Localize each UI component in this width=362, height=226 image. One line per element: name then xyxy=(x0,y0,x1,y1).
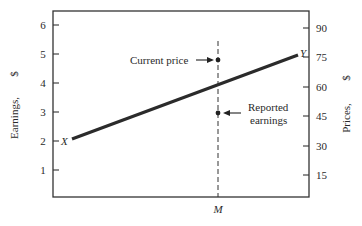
tick-label: 45 xyxy=(316,110,328,122)
tick-label: 75 xyxy=(316,51,328,63)
arrowhead-icon xyxy=(223,110,230,116)
svg-text:Earnings,: Earnings, xyxy=(8,97,20,139)
xy-line xyxy=(72,55,298,139)
svg-text:$: $ xyxy=(8,71,20,77)
left-axis-title: Earnings, $ xyxy=(8,71,20,139)
tick-label: 90 xyxy=(316,22,328,34)
tick-label: 1 xyxy=(40,164,46,176)
reported-earnings-point xyxy=(216,111,221,116)
svg-text:Prices,: Prices, xyxy=(340,103,352,133)
tick-label: 2 xyxy=(40,135,46,147)
left-axis-ticks xyxy=(53,25,59,170)
tick-label: 5 xyxy=(40,48,46,60)
tick-label: 4 xyxy=(40,77,46,89)
tick-label: 15 xyxy=(316,169,328,181)
reported-earnings-label: Reported xyxy=(248,101,289,113)
tick-label: 3 xyxy=(40,106,46,118)
left-axis-tick-labels: 1 2 3 4 5 6 xyxy=(40,19,46,176)
tick-label: 60 xyxy=(316,81,328,93)
tick-label: 6 xyxy=(40,19,46,31)
right-axis-title: Prices, $ xyxy=(340,75,352,133)
m-label: M xyxy=(212,203,223,215)
x-label: X xyxy=(60,135,69,147)
chart: 1 2 3 4 5 6 15 30 45 60 75 90 Earnings, … xyxy=(0,0,362,226)
svg-text:$: $ xyxy=(340,75,352,81)
current-price-point xyxy=(216,58,221,63)
right-axis-tick-labels: 15 30 45 60 75 90 xyxy=(316,22,328,181)
tick-label: 30 xyxy=(316,140,328,152)
reported-earnings-label: earnings xyxy=(250,114,287,126)
current-price-label: Current price xyxy=(130,54,188,66)
arrowhead-icon xyxy=(207,57,214,63)
